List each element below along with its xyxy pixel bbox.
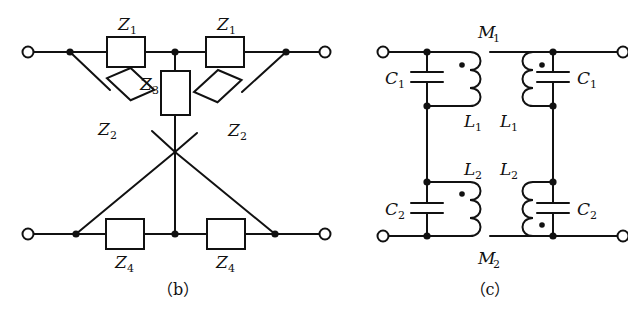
label-z1-right: Z [216,14,230,34]
dot-convention-mark-l2-right [539,222,545,228]
label-l1-left-sub: 1 [475,121,482,134]
label-z2-left-sub: 2 [110,129,117,142]
resistor-z1-left-body [107,37,145,67]
terminal-top-right-c[interactable] [618,47,628,58]
label-l1-left: L [463,111,475,131]
resistor-z3-body [161,71,190,115]
resistor-z4-left-body [106,219,144,249]
terminal-bottom-right-c[interactable] [618,231,628,242]
caption-panel-b: （b） [157,280,199,299]
label-m2-sub: 2 [493,258,500,271]
dot-convention-mark-l2-left [459,191,465,197]
terminal-bottom-left-c[interactable] [378,231,389,242]
dot-convention-mark-l1-right [539,62,545,68]
label-m1-sub: 1 [493,32,500,45]
label-z2-right: Z [227,120,241,140]
junction-dot-bottom-left-b [72,230,79,237]
junction-dot-bottom-right-b [271,230,278,237]
dot-convention-mark-l1-left [459,62,465,68]
label-z1-left: Z [117,14,131,34]
label-c2-left-sub: 2 [398,209,405,222]
label-z1-right-sub: 1 [229,24,236,37]
label-z4-right: Z [215,252,229,272]
circuit-diagram-svg: Z 1 Z 1 Z 3 Z 2 Z 2 Z 4 Z 4 （b） [0,0,628,311]
junction-dot-c-upper-left [423,102,430,109]
junction-dot-c-top-left [423,48,430,55]
junction-dot-c-top-right [549,48,556,55]
junction-dot-c-upper-right [549,102,556,109]
terminal-bottom-left-b[interactable] [23,229,34,240]
label-z3-sub: 3 [152,84,159,97]
label-l2-left: L [463,159,475,179]
junction-dot-top-right-b [282,48,289,55]
resistor-z1-right-body [206,37,244,67]
label-l2-right: L [499,159,511,179]
label-c1-left-sub: 1 [398,78,405,91]
resistor-z4-right-body [207,219,245,249]
label-l1-right: L [499,111,511,131]
label-c1-left: C [385,68,398,88]
caption-panel-c: （c） [470,280,511,299]
terminal-top-left-c[interactable] [378,47,389,58]
label-c1-right-sub: 1 [590,78,597,91]
label-c2-right-sub: 2 [590,209,597,222]
label-c2-left: C [385,199,398,219]
label-c1-right: C [577,68,590,88]
label-z3: Z [139,74,153,94]
terminal-bottom-right-b[interactable] [320,229,331,240]
terminal-top-right-b[interactable] [320,47,331,58]
label-l1-right-sub: 1 [511,121,518,134]
junction-dot-c-lower-right [549,178,556,185]
canvas-background [0,0,628,311]
terminal-top-left-b[interactable] [23,47,34,58]
label-z4-left: Z [114,252,128,272]
label-l2-right-sub: 2 [511,169,518,182]
label-z1-left-sub: 1 [130,24,137,37]
junction-dot-top-left-b [66,48,73,55]
label-l2-left-sub: 2 [475,169,482,182]
label-z4-right-sub: 4 [228,262,235,275]
label-z2-left: Z [97,119,111,139]
label-z4-left-sub: 4 [127,262,134,275]
junction-dot-top-centre-b [171,48,178,55]
junction-dot-c-bottom-left [423,232,430,239]
label-c2-right: C [577,199,590,219]
figure-canvas: Z 1 Z 1 Z 3 Z 2 Z 2 Z 4 Z 4 （b） [0,0,628,311]
label-z2-right-sub: 2 [240,130,247,143]
junction-dot-c-bottom-right [549,232,556,239]
junction-dot-c-lower-left [423,178,430,185]
junction-dot-bottom-centre-b [171,230,178,237]
